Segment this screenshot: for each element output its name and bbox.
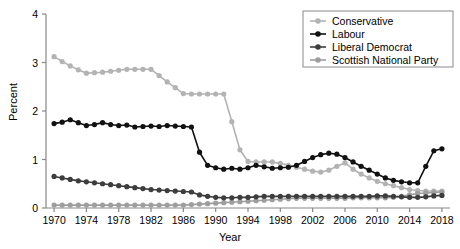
x-tick-label: 2002 bbox=[301, 214, 325, 226]
data-point bbox=[221, 91, 226, 96]
data-point bbox=[60, 202, 65, 207]
x-tick-label: 2006 bbox=[333, 214, 357, 226]
data-point bbox=[165, 123, 170, 128]
data-point bbox=[423, 194, 428, 199]
data-point bbox=[237, 147, 242, 152]
series-line bbox=[54, 120, 442, 183]
data-point bbox=[157, 124, 162, 129]
data-point bbox=[68, 117, 73, 122]
data-point bbox=[68, 63, 73, 68]
data-point bbox=[342, 194, 347, 199]
data-point bbox=[189, 124, 194, 129]
data-point bbox=[229, 195, 234, 200]
data-point bbox=[124, 67, 129, 72]
data-point bbox=[132, 124, 137, 129]
data-point bbox=[132, 67, 137, 72]
data-point bbox=[124, 122, 129, 127]
x-tick-label: 1986 bbox=[172, 214, 196, 226]
data-point bbox=[262, 164, 267, 169]
data-point bbox=[116, 68, 121, 73]
data-point bbox=[439, 193, 444, 198]
line-chart: 0123419701974197819821986199019941998200… bbox=[0, 0, 460, 249]
data-point bbox=[318, 170, 323, 175]
data-point bbox=[423, 164, 428, 169]
data-point bbox=[100, 70, 105, 75]
data-point bbox=[229, 119, 234, 124]
data-point bbox=[270, 166, 275, 171]
data-point bbox=[221, 167, 226, 172]
data-point bbox=[173, 188, 178, 193]
data-point bbox=[92, 180, 97, 185]
data-point bbox=[439, 146, 444, 151]
data-point bbox=[407, 180, 412, 185]
data-point bbox=[100, 120, 105, 125]
data-point bbox=[286, 165, 291, 170]
data-point bbox=[367, 175, 372, 180]
data-point bbox=[181, 202, 186, 207]
data-point bbox=[262, 194, 267, 199]
data-point bbox=[173, 202, 178, 207]
data-point bbox=[60, 120, 65, 125]
data-point bbox=[165, 202, 170, 207]
data-point bbox=[213, 91, 218, 96]
data-point bbox=[367, 168, 372, 173]
data-point bbox=[375, 179, 380, 184]
data-point bbox=[197, 91, 202, 96]
legend-swatch-marker bbox=[315, 44, 321, 50]
data-point bbox=[140, 67, 145, 72]
data-point bbox=[399, 185, 404, 190]
x-tick-label: 1994 bbox=[236, 214, 260, 226]
y-tick-label: 1 bbox=[32, 154, 38, 166]
data-point bbox=[84, 202, 89, 207]
data-point bbox=[60, 175, 65, 180]
data-point bbox=[76, 67, 81, 72]
data-point bbox=[221, 195, 226, 200]
x-tick-label: 1998 bbox=[269, 214, 293, 226]
data-point bbox=[165, 79, 170, 84]
data-point bbox=[350, 159, 355, 164]
y-axis-title: Percent bbox=[7, 72, 19, 132]
data-point bbox=[221, 200, 226, 205]
data-point bbox=[84, 179, 89, 184]
data-point bbox=[116, 183, 121, 188]
data-point bbox=[407, 187, 412, 192]
data-point bbox=[326, 168, 331, 173]
data-point bbox=[157, 187, 162, 192]
data-point bbox=[60, 59, 65, 64]
data-point bbox=[375, 171, 380, 176]
data-point bbox=[229, 166, 234, 171]
data-point bbox=[245, 165, 250, 170]
data-point bbox=[140, 202, 145, 207]
data-point bbox=[294, 163, 299, 168]
data-point bbox=[68, 177, 73, 182]
data-point bbox=[213, 201, 218, 206]
y-tick-label: 2 bbox=[32, 105, 38, 117]
data-point bbox=[148, 202, 153, 207]
legend-label: Liberal Democrat bbox=[332, 41, 412, 53]
data-point bbox=[302, 194, 307, 199]
data-point bbox=[415, 180, 420, 185]
data-point bbox=[132, 202, 137, 207]
data-point bbox=[197, 150, 202, 155]
data-point bbox=[278, 165, 283, 170]
data-point bbox=[310, 169, 315, 174]
data-point bbox=[213, 195, 218, 200]
data-point bbox=[302, 159, 307, 164]
data-point bbox=[148, 187, 153, 192]
data-point bbox=[205, 163, 210, 168]
data-point bbox=[108, 182, 113, 187]
data-point bbox=[51, 121, 56, 126]
data-point bbox=[270, 159, 275, 164]
data-point bbox=[415, 195, 420, 200]
data-point bbox=[302, 167, 307, 172]
data-point bbox=[334, 194, 339, 199]
data-point bbox=[189, 189, 194, 194]
data-point bbox=[84, 123, 89, 128]
data-point bbox=[116, 123, 121, 128]
data-point bbox=[148, 67, 153, 72]
data-point bbox=[253, 194, 258, 199]
data-point bbox=[359, 164, 364, 169]
data-point bbox=[342, 160, 347, 165]
data-point bbox=[173, 123, 178, 128]
data-point bbox=[92, 70, 97, 75]
